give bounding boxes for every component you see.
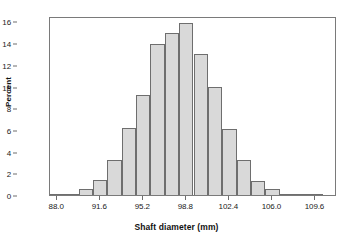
histogram-bar: [122, 128, 136, 195]
histogram-bar: [179, 23, 193, 195]
x-tick-label: 102.4: [219, 202, 239, 211]
y-tick-label: 4: [7, 148, 11, 157]
x-tick-label: 98.8: [178, 202, 193, 211]
x-tick-label: 95.2: [135, 202, 150, 211]
histogram-bar: [136, 95, 150, 195]
y-tick-mark: [13, 22, 17, 23]
x-tick-mark: [314, 196, 315, 200]
plot-area: [49, 17, 336, 196]
y-tick-label: 8: [7, 105, 11, 114]
histogram-bar: [150, 44, 164, 195]
histogram-bar: [222, 129, 236, 195]
histogram-bar: [280, 194, 294, 195]
x-tick-label: 88.0: [49, 202, 64, 211]
histogram-bar: [208, 87, 222, 195]
histogram-bar: [107, 160, 121, 195]
histogram-chart: Percent 0246810121416 88.091.695.298.810…: [0, 0, 353, 241]
histogram-bar: [308, 194, 322, 195]
histogram-bar: [237, 160, 251, 195]
histogram-bar: [294, 194, 308, 195]
x-tick-label: 109.6: [305, 202, 325, 211]
y-tick-label: 6: [7, 126, 11, 135]
y-tick-mark: [13, 174, 17, 175]
histogram-bar: [194, 54, 208, 195]
x-tick-mark: [56, 196, 57, 200]
y-tick-label: 16: [2, 18, 11, 27]
x-tick-mark: [271, 196, 272, 200]
x-tick-label: 91.6: [92, 202, 107, 211]
y-tick-mark: [13, 65, 17, 66]
x-tick-label: 106.0: [262, 202, 282, 211]
y-tick-label: 12: [2, 61, 11, 70]
x-tick-mark: [185, 196, 186, 200]
x-axis: 88.091.695.298.8102.4106.0109.6: [0, 196, 353, 241]
y-tick-label: 2: [7, 170, 11, 179]
histogram-bar: [79, 189, 93, 196]
x-tick-mark: [99, 196, 100, 200]
y-tick-mark: [13, 130, 17, 131]
x-tick-mark: [142, 196, 143, 200]
x-tick-mark: [228, 196, 229, 200]
histogram-bar: [265, 189, 279, 195]
histogram-bar: [165, 33, 179, 195]
y-tick-label: 14: [2, 40, 11, 49]
histogram-bar: [93, 180, 107, 195]
y-tick-mark: [13, 152, 17, 153]
histogram-bar: [50, 194, 64, 195]
bars-layer: [50, 18, 335, 195]
y-tick-label: 10: [2, 83, 11, 92]
x-axis-title: Shaft diameter (mm): [0, 222, 353, 232]
histogram-bar: [251, 181, 265, 195]
histogram-bar: [64, 194, 78, 195]
y-tick-mark: [13, 109, 17, 110]
y-tick-mark: [13, 44, 17, 45]
y-tick-mark: [13, 87, 17, 88]
